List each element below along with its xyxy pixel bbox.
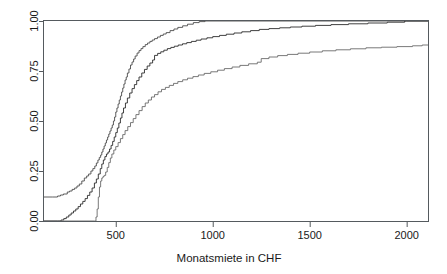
y-tick-label: 1.00 <box>28 10 40 31</box>
x-tick-label: 500 <box>107 229 125 241</box>
x-tick-label: 2000 <box>394 229 418 241</box>
y-tick-label: 0.75 <box>28 60 40 81</box>
chart-root: 0.000.250.500.751.00 500100015002000 Mon… <box>0 0 447 274</box>
y-tick-label: 0.00 <box>28 210 40 231</box>
x-tick-label: 1000 <box>200 229 224 241</box>
x-axis-title: Monatsmiete in CHF <box>177 252 282 264</box>
x-tick-label: 1500 <box>297 229 321 241</box>
y-tick-label: 0.25 <box>28 160 40 181</box>
ecdf-plot: 0.000.250.500.751.00 500100015002000 Mon… <box>0 0 447 274</box>
y-tick-label: 0.50 <box>28 110 40 131</box>
